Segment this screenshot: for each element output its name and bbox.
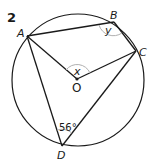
chord-AD [27,36,62,146]
angle-label-y: y [104,24,112,37]
point-label-A: A [16,27,25,40]
point-label-D: D [57,149,65,162]
angle-label-x: x [73,65,81,78]
radius-OC [77,51,136,79]
problem-number: 2 [7,10,16,25]
point-label-C: C [139,46,147,59]
point-label-O: O [72,81,81,95]
point-label-B: B [110,9,118,22]
chord-BC [114,22,136,51]
angle-label-56: 56° [59,122,77,133]
circle-theorem-diagram: 2 A B C D O y x 56° [0,0,153,164]
